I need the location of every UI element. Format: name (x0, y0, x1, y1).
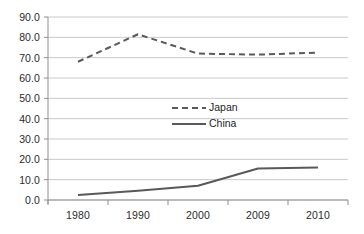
series-line-china (78, 167, 318, 194)
y-tick-label: 20.0 (0, 153, 40, 165)
line-chart: 0.010.020.030.040.050.060.070.080.090.0 … (0, 0, 364, 234)
legend-label-japan: Japan (209, 101, 238, 113)
y-tick-label: 90.0 (0, 11, 40, 23)
y-tick-label: 30.0 (0, 133, 40, 145)
y-tick-label: 10.0 (0, 174, 40, 186)
axis-lines (44, 17, 348, 204)
x-tick-label: 2000 (186, 209, 210, 221)
x-tick-label: 1980 (66, 209, 90, 221)
y-tick-label: 80.0 (0, 31, 40, 43)
legend-label-china: China (209, 117, 236, 129)
x-tick-label: 2009 (246, 209, 270, 221)
legend-line-keys (172, 108, 206, 124)
y-tick-label: 40.0 (0, 113, 40, 125)
x-tick-label: 2010 (306, 209, 330, 221)
series-lines (78, 34, 318, 195)
plot-area (0, 0, 364, 234)
y-tick-label: 60.0 (0, 72, 40, 84)
x-tick-label: 1990 (126, 209, 150, 221)
y-tick-label: 70.0 (0, 52, 40, 64)
x-axis-tick-marks (48, 200, 348, 205)
y-tick-label: 0.0 (0, 194, 40, 206)
y-tick-label: 50.0 (0, 92, 40, 104)
